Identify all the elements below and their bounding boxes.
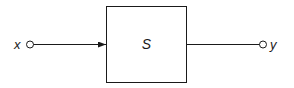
system-label: S: [142, 36, 152, 52]
output-terminal: [260, 41, 267, 48]
block-diagram: x S y: [0, 0, 294, 88]
input-terminal: [27, 41, 34, 48]
output-label: y: [269, 37, 278, 52]
input-label: x: [13, 37, 21, 52]
